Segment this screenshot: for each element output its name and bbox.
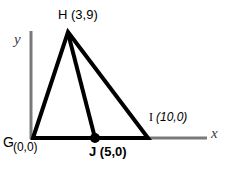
point-label-g-coord: (0,0) xyxy=(13,140,38,154)
geometry-figure: y x H (3,9) I (10,0) G(0,0) J (5,0) xyxy=(0,0,233,169)
point-label-i: I (10,0) xyxy=(149,111,187,123)
point-label-h: H (3,9) xyxy=(58,8,98,21)
point-marker-j xyxy=(90,133,100,143)
point-label-j: J (5,0) xyxy=(89,145,127,158)
point-label-i-coord: (10,0) xyxy=(156,110,187,124)
x-axis-label: x xyxy=(211,126,218,141)
y-axis-label: y xyxy=(14,32,21,47)
point-label-g: G(0,0) xyxy=(3,135,39,149)
